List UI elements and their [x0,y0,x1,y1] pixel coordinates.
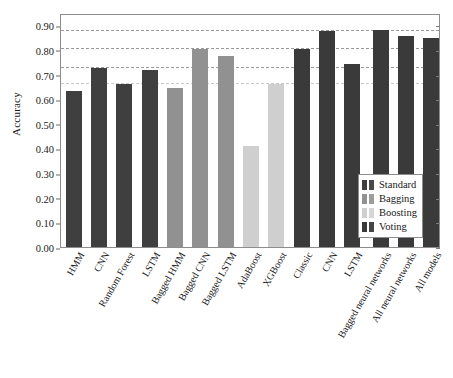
x-axis-tick-label: LSTM [139,250,162,279]
y-axis-minor-tick [436,26,440,27]
x-axis-tick-labels: HMMCNNRandom ForestLSTMBagged HMMBagged … [60,250,440,370]
y-axis-minor-tick [436,76,440,77]
bar [192,49,208,247]
x-axis-tick [327,247,328,248]
y-axis-minor-tick [436,199,440,200]
y-axis-minor-tick [436,51,440,52]
x-axis-tick-label: CNN [319,250,339,274]
bar [167,88,183,247]
y-axis-tick-label: 0.50 [0,119,60,130]
bar [116,84,132,247]
legend-swatch-pair [362,180,374,190]
legend-swatch [369,194,374,204]
x-axis-tick [302,247,303,248]
y-axis-tick-label: 0.40 [0,144,60,155]
x-axis-tick [200,247,201,248]
bar-chart-figure: Accuracy 0.000.100.200.300.400.500.600.7… [0,0,453,378]
x-axis-tick [175,247,176,248]
legend-swatch [362,194,367,204]
legend: StandardBaggingBoostingVoting [358,174,423,238]
y-axis-tick-label: 0.70 [0,70,60,81]
legend-item[interactable]: Bagging [362,192,417,206]
bar [218,56,234,247]
bar [66,91,82,247]
legend-swatch-pair [362,208,374,218]
legend-swatch [369,208,374,218]
y-axis-tick-label: 0.30 [0,169,60,180]
y-axis-minor-tick [436,174,440,175]
bar [319,31,335,247]
y-axis-minor-tick [436,248,440,249]
x-axis-tick [74,247,75,248]
y-axis-tick-label: 0.80 [0,45,60,56]
bar [268,84,284,247]
x-axis-tick [150,247,151,248]
legend-swatch [362,222,367,232]
x-axis-tick-label: HMM [64,250,86,277]
legend-item[interactable]: Voting [362,220,417,234]
y-axis-tick-label: 0.10 [0,218,60,229]
y-axis-minor-tick [436,223,440,224]
bar [91,68,107,247]
legend-label: Bagging [379,194,415,205]
x-axis-tick-label: LSTM [342,250,365,279]
legend-label: Standard [379,180,416,191]
x-axis-tick-label: XGBoost [260,250,288,288]
x-axis-tick [124,247,125,248]
x-axis-tick [276,247,277,248]
legend-item[interactable]: Standard [362,178,417,192]
legend-label: Voting [379,222,407,233]
x-axis-tick [406,247,407,248]
x-axis-tick [251,247,252,248]
legend-swatch [362,208,367,218]
y-axis-tick-label: 0.60 [0,95,60,106]
x-axis-tick [431,247,432,248]
bar [243,146,259,247]
y-axis-tick-label: 0.90 [0,21,60,32]
y-axis-minor-tick [436,125,440,126]
bar [294,49,310,247]
x-axis-tick [226,247,227,248]
x-axis-tick-label: Classic [290,250,314,281]
x-axis-tick-label: CNN [91,250,111,274]
y-axis-tick-label: 0.00 [0,243,60,254]
y-axis-minor-tick [436,100,440,101]
y-axis-minor-tick [436,149,440,150]
x-axis-tick [352,247,353,248]
bar [423,38,439,247]
legend-swatch-pair [362,194,374,204]
legend-swatch [369,180,374,190]
legend-swatch [369,222,374,232]
legend-label: Boosting [379,208,417,219]
bar [142,70,158,247]
legend-swatch [362,180,367,190]
x-axis-tick [381,247,382,248]
x-axis-tick [99,247,100,248]
legend-item[interactable]: Boosting [362,206,417,220]
x-axis-tick-label: AdaBoost [234,250,264,290]
legend-swatch-pair [362,222,374,232]
y-axis-tick-label: 0.20 [0,193,60,204]
